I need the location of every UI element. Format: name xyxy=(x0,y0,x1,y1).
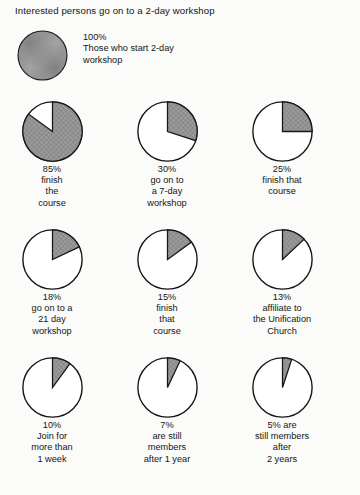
pie-svg-5 xyxy=(251,356,314,419)
pie-chart-15 xyxy=(136,228,199,291)
pie-unit-3: 18% go on to a 21 day workshop xyxy=(0,228,112,337)
pie-caption-top: 100% Those who start 2-day workshop xyxy=(83,32,174,66)
pie-caption-4: 15% finish that course xyxy=(107,292,227,337)
pie-unit-6: 10% Join for more than 1 week xyxy=(0,356,112,465)
pie-unit-top: 100% Those who start 2-day workshop xyxy=(17,30,237,88)
pie-chart-25 xyxy=(251,100,314,163)
pie-unit-7: 7% are still members after 1 year xyxy=(107,356,227,465)
pie-caption-2: 25% finish that course xyxy=(222,164,342,198)
pie-chart-85 xyxy=(21,100,84,163)
pie-caption-6: 10% Join for more than 1 week xyxy=(0,420,112,465)
pie-chart-7 xyxy=(136,356,199,419)
pie-unit-8: 5% are still members after 2 years xyxy=(222,356,342,465)
pie-svg-7 xyxy=(136,356,199,419)
pie-svg-25 xyxy=(251,100,314,163)
figure-title: Interested persons go on to a 2-day work… xyxy=(15,5,215,16)
pie-chart-100 xyxy=(17,30,68,81)
pie-svg-13 xyxy=(251,228,314,291)
pie-chart-5 xyxy=(251,356,314,419)
pie-caption-8: 5% are still members after 2 years xyxy=(222,420,342,465)
pie-caption-5: 13% affiliate to the Unification Church xyxy=(222,292,342,337)
pie-caption-7: 7% are still members after 1 year xyxy=(107,420,227,465)
pie-svg-100 xyxy=(17,30,68,81)
pie-chart-10 xyxy=(21,356,84,419)
pie-svg-18 xyxy=(21,228,84,291)
pie-caption-3: 18% go on to a 21 day workshop xyxy=(0,292,112,337)
pie-slice-shaded xyxy=(282,102,312,132)
pie-slice-shaded xyxy=(18,31,67,80)
pie-svg-15 xyxy=(136,228,199,291)
pie-svg-30 xyxy=(136,100,199,163)
pie-chart-18 xyxy=(21,228,84,291)
pie-chart-30 xyxy=(136,100,199,163)
figure-root: Interested persons go on to a 2-day work… xyxy=(0,0,360,495)
pie-svg-10 xyxy=(21,356,84,419)
pie-unit-4: 15% finish that course xyxy=(107,228,227,337)
pie-svg-85 xyxy=(21,100,84,163)
pie-caption-0: 85% finish the course xyxy=(0,164,112,209)
pie-chart-13 xyxy=(251,228,314,291)
pie-unit-2: 25% finish that course xyxy=(222,100,342,198)
pie-unit-5: 13% affiliate to the Unification Church xyxy=(222,228,342,337)
pie-caption-1: 30% go on to a 7-day workshop xyxy=(107,164,227,209)
pie-unit-1: 30% go on to a 7-day workshop xyxy=(107,100,227,209)
pie-unit-0: 85% finish the course xyxy=(0,100,112,209)
